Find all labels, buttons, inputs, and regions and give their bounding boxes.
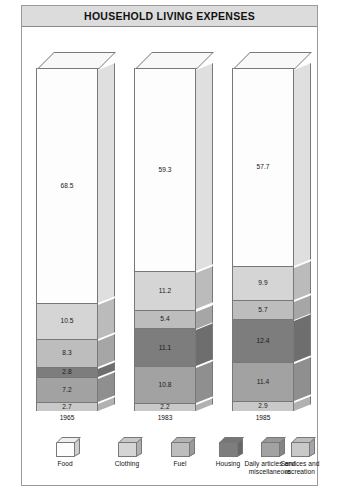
- legend-item[interactable]: Services and recreation: [270, 442, 330, 476]
- bar-segment-value: 10.8: [158, 382, 171, 389]
- legend-swatch-side: [74, 442, 80, 457]
- bar-segment-value: 2.8: [62, 369, 71, 376]
- legend-item[interactable]: Fuel: [160, 442, 200, 468]
- legend-swatch-top: [118, 437, 137, 443]
- bar-category-label: 1965: [36, 411, 98, 421]
- bar-category-label: 1985: [232, 411, 294, 421]
- bar-stack: 59.311.25.411.110.82.21983: [134, 68, 214, 411]
- bar-segment[interactable]: 68.5: [36, 68, 98, 303]
- legend-swatch-front: [56, 442, 75, 457]
- legend-item-label: Fuel: [160, 460, 200, 468]
- bar-stack: 68.510.58.32.87.22.71965: [36, 68, 116, 411]
- figure-frame: HOUSEHOLD LIVING EXPENSES Composition of…: [21, 5, 318, 486]
- bar-segment-value: 11.1: [159, 345, 172, 352]
- bar-segment[interactable]: 59.3: [134, 68, 196, 271]
- legend-item-label: Clothing: [100, 460, 154, 468]
- bar-segment-value: 10.5: [60, 318, 73, 325]
- page-title: HOUSEHOLD LIVING EXPENSES: [84, 10, 255, 22]
- bar-segment[interactable]: 12.4: [232, 319, 294, 362]
- bar-top-face: [37, 52, 99, 69]
- legend-swatch-top: [291, 437, 310, 443]
- bar-segment[interactable]: 5.4: [134, 310, 196, 329]
- bar-segment[interactable]: 8.3: [36, 339, 98, 367]
- bar-segment-value: 9.9: [258, 280, 267, 287]
- legend-swatch-side: [189, 442, 195, 457]
- bar-segment[interactable]: 2.2: [134, 403, 196, 411]
- legend-swatch-front: [291, 442, 310, 457]
- bar-segment-value: 11.4: [257, 379, 270, 386]
- bar-segment-value: 59.3: [158, 167, 171, 174]
- bar-segment-value: 68.5: [60, 183, 73, 190]
- bar-segment[interactable]: 2.8: [36, 367, 98, 377]
- bar-segment-value: 7.2: [62, 387, 71, 394]
- bar-top-face: [233, 52, 295, 69]
- chart-title-bar: HOUSEHOLD LIVING EXPENSES: [22, 6, 317, 27]
- legend-swatch-icon: [291, 442, 310, 457]
- bar-segment[interactable]: 2.9: [232, 401, 294, 411]
- legend-swatch-front: [118, 442, 137, 457]
- legend-swatch-icon: [56, 442, 75, 457]
- legend-swatch-side: [136, 442, 142, 457]
- bar-segment-value: 12.4: [256, 338, 269, 345]
- bar-segment[interactable]: 10.5: [36, 303, 98, 339]
- bar-segment[interactable]: 11.2: [134, 271, 196, 309]
- legend-item[interactable]: Clothing: [100, 442, 154, 468]
- bar-category-label: 1983: [134, 411, 196, 421]
- bar-stack: 57.79.95.712.411.42.91985: [232, 68, 312, 411]
- legend-swatch-side: [309, 442, 315, 457]
- bar-segment[interactable]: 2.7: [36, 402, 98, 411]
- legend-swatch-icon: [171, 442, 190, 457]
- plot-area: Composition of expenditure (%) 68.510.58…: [22, 27, 317, 439]
- bar-segment-value: 2.9: [258, 403, 267, 410]
- bar-segment[interactable]: 7.2: [36, 377, 98, 402]
- bar-segment[interactable]: 5.7: [232, 300, 294, 320]
- chart-legend: FoodClothingFuelHousingDaily articles an…: [22, 442, 317, 486]
- legend-item-label: Food: [40, 460, 90, 468]
- bar-group-1983: 59.311.25.411.110.82.21983: [134, 68, 214, 411]
- bar-segment-value: 5.7: [258, 307, 267, 314]
- legend-item-label: Services and recreation: [270, 460, 330, 476]
- legend-item[interactable]: Food: [40, 442, 90, 468]
- bar-segment-value: 8.3: [62, 350, 71, 357]
- bar-segment-value: 57.7: [256, 164, 269, 171]
- bar-segment-value: 11.2: [159, 288, 172, 295]
- bar-segment[interactable]: 11.4: [232, 362, 294, 401]
- bar-top-face: [135, 52, 197, 69]
- legend-swatch-icon: [118, 442, 137, 457]
- bar-segment[interactable]: 10.8: [134, 366, 196, 403]
- bar-segment-value: 5.4: [160, 316, 169, 323]
- bar-segment[interactable]: 57.7: [232, 68, 294, 266]
- legend-swatch-front: [171, 442, 190, 457]
- bar-segment-value: 2.7: [62, 404, 71, 411]
- bar-segment[interactable]: 11.1: [134, 328, 196, 366]
- legend-swatch-top: [56, 437, 75, 443]
- bar-group-1985: 57.79.95.712.411.42.91985: [232, 68, 312, 411]
- legend-swatch-top: [171, 437, 190, 443]
- bar-segment[interactable]: 9.9: [232, 266, 294, 300]
- bar-group-1965: 68.510.58.32.87.22.71965: [36, 68, 116, 411]
